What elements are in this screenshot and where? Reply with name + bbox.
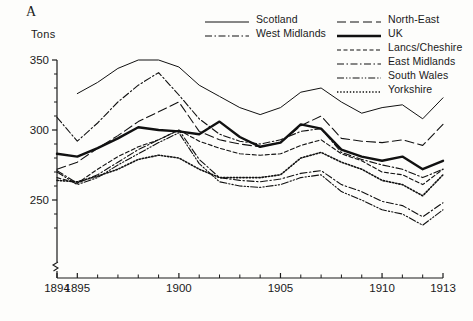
legend-key-icon: [205, 27, 249, 38]
legend-label: North-East: [388, 13, 439, 25]
legend-label: East Midlands: [388, 55, 455, 67]
chart-figure: A Tons 250300350189418951900190519101913…: [0, 0, 473, 321]
legend-label: South Wales: [388, 69, 448, 81]
legend-item-scotland[interactable]: Scotland: [205, 12, 337, 25]
svg-text:1913: 1913: [430, 282, 456, 294]
legend-item-north-east[interactable]: North-East: [337, 12, 462, 25]
legend-item-yorkshire[interactable]: Yorkshire: [337, 82, 462, 95]
legend-item-uk[interactable]: UK: [337, 26, 462, 39]
legend-column-0: ScotlandWest Midlands: [205, 12, 337, 95]
legend: ScotlandWest MidlandsNorth-EastUKLancs/C…: [205, 12, 471, 95]
legend-key-icon: [337, 55, 381, 66]
legend-key-icon: [337, 13, 381, 24]
series-line-south-wales: [57, 133, 443, 225]
legend-label: Scotland: [256, 13, 298, 25]
series-line-lancs-cheshire: [57, 130, 443, 185]
legend-key-icon: [205, 13, 249, 24]
legend-item-west-midlands[interactable]: West Midlands: [205, 26, 337, 39]
legend-column-1: North-EastUKLancs/CheshireEast MidlandsS…: [337, 12, 462, 95]
legend-key-icon: [337, 41, 381, 52]
legend-key-icon: [337, 69, 381, 80]
legend-item-east-midlands[interactable]: East Midlands: [337, 54, 462, 67]
svg-text:1900: 1900: [166, 282, 192, 294]
svg-text:1910: 1910: [369, 282, 395, 294]
legend-label: Yorkshire: [388, 83, 432, 95]
svg-text:1905: 1905: [268, 282, 294, 294]
svg-text:350: 350: [30, 54, 49, 66]
legend-label: Lancs/Cheshire: [388, 41, 462, 53]
svg-text:300: 300: [30, 124, 49, 136]
legend-item-lancs-cheshire[interactable]: Lancs/Cheshire: [337, 40, 462, 53]
legend-item-south-wales[interactable]: South Wales: [337, 68, 462, 81]
svg-text:1895: 1895: [65, 282, 91, 294]
legend-key-icon: [337, 83, 381, 94]
legend-label: UK: [388, 27, 403, 39]
legend-key-icon: [337, 27, 381, 38]
svg-text:250: 250: [30, 194, 49, 206]
legend-label: West Midlands: [256, 27, 326, 39]
